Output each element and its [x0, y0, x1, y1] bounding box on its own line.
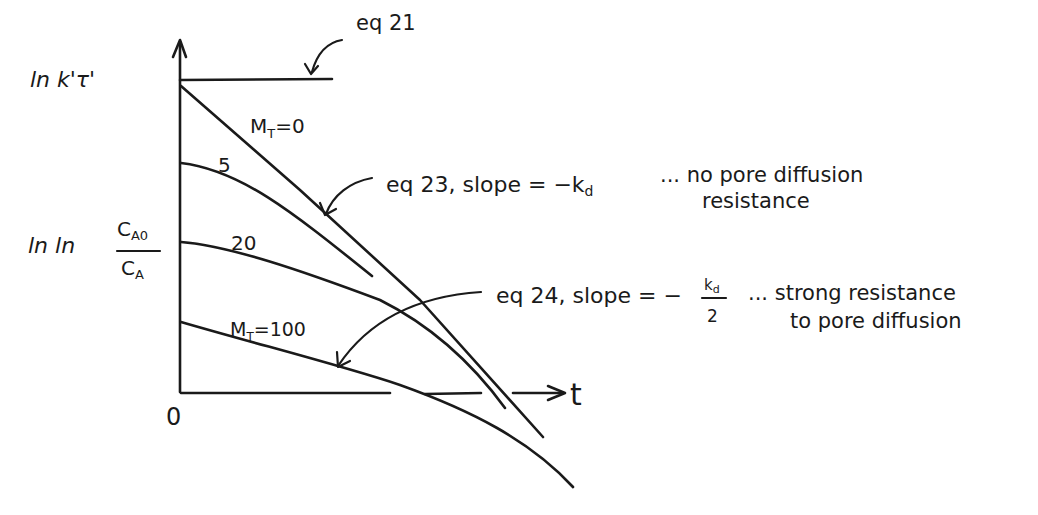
- label-mt0: MT=0: [250, 114, 305, 141]
- curve-mt5: [181, 163, 372, 276]
- eq21-reference-line: [180, 79, 332, 80]
- deactivation-diagram: ln k'τ' ln ln CA0 CA 0 t MT=0 5 20 MT=10…: [0, 0, 1038, 515]
- label-mt20: 20: [231, 231, 256, 255]
- y-label-lnln-prefix: ln ln: [28, 233, 75, 258]
- label-mt5: 5: [218, 153, 231, 177]
- eq21-label: eq 21: [356, 11, 416, 35]
- eq24-fraction: kd 2: [702, 276, 726, 326]
- origin-label: 0: [166, 403, 181, 431]
- eq23-pointer-arrow: [326, 178, 372, 214]
- y-label-num: CA0: [117, 217, 148, 243]
- eq24-note-line2: to pore diffusion: [790, 309, 962, 333]
- y-label-den: CA: [121, 256, 144, 282]
- eq24-frac-den: 2: [707, 306, 718, 326]
- eq24-note-line1: ... strong resistance: [748, 281, 956, 305]
- eq23-label: eq 23, slope = −kd: [386, 172, 594, 199]
- y-label-ln-k-tau: ln k'τ': [30, 67, 95, 92]
- x-axis-segment-2: [425, 393, 481, 394]
- eq24-label: eq 24, slope = −: [496, 283, 682, 308]
- eq23-note-line2: resistance: [702, 189, 810, 213]
- eq23-note-line1: ... no pore diffusion: [660, 163, 863, 187]
- eq24-frac-num: kd: [704, 276, 720, 296]
- x-axis-label-t: t: [570, 377, 582, 412]
- axes: [173, 40, 565, 400]
- y-label-lnln-ratio: ln ln CA0 CA: [28, 217, 160, 282]
- curve-mt0: [181, 86, 543, 437]
- eq21-arrowhead-icon: [305, 64, 318, 74]
